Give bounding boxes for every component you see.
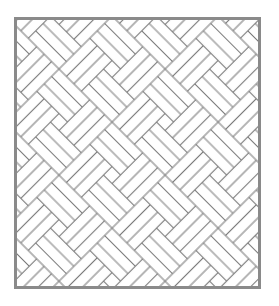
parquet-pattern-frame (14, 17, 261, 289)
parquet-pattern-svg (14, 17, 261, 289)
basket-weave-fill (14, 17, 261, 289)
